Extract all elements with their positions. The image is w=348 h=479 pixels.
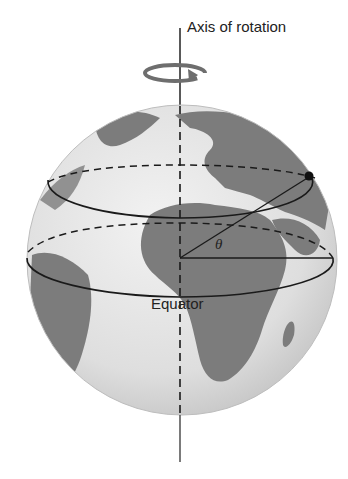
earth-rotation-diagram xyxy=(0,0,348,479)
equator-label: Equator xyxy=(151,295,204,312)
surface-point xyxy=(305,172,314,181)
rotation-arrow-icon xyxy=(145,65,205,82)
globe xyxy=(27,105,337,415)
axis-of-rotation-label: Axis of rotation xyxy=(187,18,286,35)
theta-angle-label: θ xyxy=(215,236,222,253)
